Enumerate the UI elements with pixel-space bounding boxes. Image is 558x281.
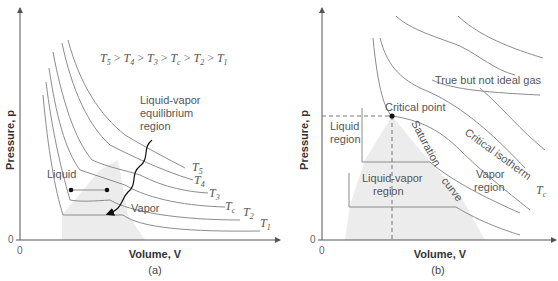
vapor-label: Vapor [131,202,160,214]
y-origin-label: 0 [310,234,316,245]
critical-point-marker [389,113,394,118]
temperature-ordering: T5 > T4 > T3 > Tc > T2 > T1 [100,51,228,67]
liquid-label: Liquid [47,168,76,180]
label-tc: Tc [536,183,547,199]
panel-b: 0 0 Pressure, p Volume, V (b) True but n… [298,8,556,276]
y-origin-label: 0 [8,234,14,245]
label-tc: Tc [225,199,236,215]
y-axis-label: Pressure, p [298,110,310,170]
label-t1: T1 [260,216,271,232]
liquid-vapor-region-label-line1: Liquid-vapor [362,172,423,184]
x-origin-label: 0 [17,245,23,256]
label-t2: T2 [243,205,254,221]
region-label-line1: Liquid-vapor [140,94,201,106]
liquid-region-label-line1: Liquid [330,120,359,132]
x-axis-label: Volume, V [414,248,467,260]
x-axis-label: Volume, V [129,248,182,260]
true-gas-label: True but not ideal gas [435,74,541,86]
caption-a: (a) [148,264,161,276]
region-label-line2: equilibrium [140,107,193,119]
vapor-region-label-line1: Vapor [476,168,505,180]
isotherm-upper-2 [396,16,515,75]
panel-a: 0 0 Pressure, p Volume, V (a) T5 > T4 > … [4,8,280,276]
x-origin-label: 0 [319,245,325,256]
label-t3: T3 [209,186,220,202]
liquid-vapor-region-label-line2: region [373,185,404,197]
vapor-region-label-line2: region [474,181,505,193]
label-t4: T4 [194,173,205,189]
liquid-point [69,188,74,193]
y-axis-label: Pressure, p [4,110,16,170]
caption-b: (b) [431,264,444,276]
critical-point-label: Critical point [385,101,446,113]
vapor-point [105,188,110,193]
pv-diagram-figure: 0 0 Pressure, p Volume, V (a) T5 > T4 > … [0,0,558,281]
liquid-region-label-line2: region [330,133,361,145]
region-label-line3: region [140,120,171,132]
